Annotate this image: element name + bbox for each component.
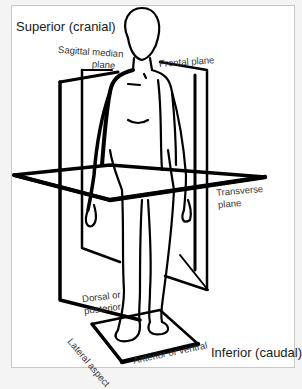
sagittal-plane-label-line2: plane (92, 58, 116, 71)
superior-label: Superior (cranial) (16, 19, 116, 34)
sagittal-plane (60, 70, 140, 320)
transverse-plane-label-line2: plane (218, 197, 242, 210)
inferior-label: Inferior (caudal) (211, 345, 302, 360)
